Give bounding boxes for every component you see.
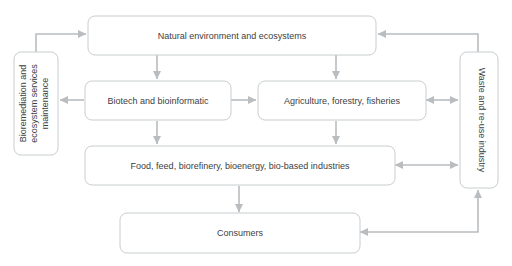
node-waste-industry-label: Waste and re-use industry [477, 68, 487, 173]
node-natural-environment-label: Natural environment and ecosystems [158, 31, 307, 41]
node-natural-environment[interactable]: Natural environment and ecosystems [88, 16, 376, 55]
node-bioremediation-label-line3: maintenance [40, 78, 50, 130]
node-agriculture-label: Agriculture, forestry, fisheries [284, 96, 400, 106]
node-food-industries[interactable]: Food, feed, biorefinery, bioenergy, bio-… [85, 146, 395, 185]
edge-waste-to-natural-environment [378, 34, 478, 52]
node-agriculture[interactable]: Agriculture, forestry, fisheries [258, 81, 426, 120]
node-biotech[interactable]: Biotech and bioinformatic [85, 81, 231, 120]
flow-diagram-canvas: Natural environment and ecosystems Biore… [0, 0, 512, 266]
node-consumers[interactable]: Consumers [120, 213, 360, 253]
edge-bioremediation-to-natural-environment [36, 34, 86, 52]
node-waste-industry[interactable]: Waste and re-use industry [460, 52, 498, 188]
node-food-industries-label: Food, feed, biorefinery, bioenergy, bio-… [131, 161, 350, 171]
edge-layer [36, 34, 478, 232]
node-biotech-label: Biotech and bioinformatic [107, 96, 209, 106]
node-layer: Natural environment and ecosystems Biore… [14, 16, 498, 253]
node-bioremediation[interactable]: Bioremediation and ecosystem services ma… [14, 52, 58, 155]
node-bioremediation-label-line1: Bioremediation and [18, 65, 28, 143]
flow-diagram: Natural environment and ecosystems Biore… [0, 0, 512, 266]
edge-consumers-to-waste [360, 190, 478, 232]
node-bioremediation-label-line2: ecosystem services [29, 64, 39, 143]
node-consumers-label: Consumers [217, 228, 264, 238]
